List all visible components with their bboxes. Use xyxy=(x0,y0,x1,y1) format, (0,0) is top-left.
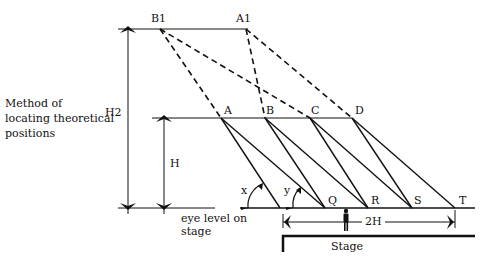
diagram-caption: Method of locating theoretical positions xyxy=(5,96,114,141)
stage-label: Stage xyxy=(331,240,363,253)
point-label-c: C xyxy=(311,104,319,117)
dimension-label-h2: H2 xyxy=(105,106,122,119)
eye-level-label-line-1: eye level on xyxy=(181,212,247,225)
point-label-b: B xyxy=(266,104,274,117)
point-label-a1: A1 xyxy=(236,12,251,25)
dimension-label-h: H xyxy=(170,157,180,170)
arrow-icon xyxy=(296,187,301,194)
point-label-a: A xyxy=(224,104,232,117)
point-label-t: T xyxy=(459,194,466,207)
angle-label-y: y xyxy=(284,184,290,197)
dimension-label-2h: 2H xyxy=(362,215,385,228)
caption-line-2: locating theoretical xyxy=(5,111,114,126)
angle-label-x: x xyxy=(241,184,247,197)
point-label-r: R xyxy=(371,194,379,207)
point-label-d: D xyxy=(355,104,364,117)
stage-edge xyxy=(283,236,475,252)
diagram-canvas: Method of locating theoretical positions… xyxy=(0,0,500,262)
caption-line-3: positions xyxy=(5,126,114,141)
point-label-s: S xyxy=(414,194,422,207)
person-figure-icon xyxy=(344,209,349,231)
point-label-q: Q xyxy=(328,194,337,207)
arrow-icon xyxy=(258,183,263,190)
dashed-sightlines xyxy=(160,29,352,118)
caption-line-1: Method of xyxy=(5,96,114,111)
point-label-b1: B1 xyxy=(151,12,166,25)
eye-level-label-line-2: stage xyxy=(181,225,211,238)
